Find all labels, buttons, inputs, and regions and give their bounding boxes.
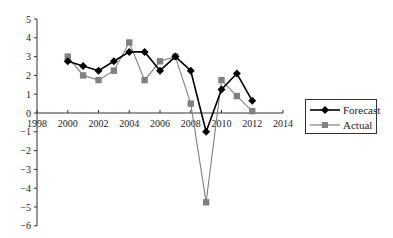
forecast-marker (95, 67, 103, 75)
forecast-line-diamond-icon (310, 105, 340, 115)
actual-marker (80, 72, 86, 78)
legend-item-forecast: Forecast (310, 103, 380, 117)
y-tick-label: 5 (26, 14, 31, 25)
actual-marker (141, 77, 147, 83)
x-tick-label: 2008 (181, 118, 201, 129)
y-tick-label: 0 (26, 108, 31, 119)
x-tick-label: 2010 (212, 118, 232, 129)
forecast-marker (248, 97, 256, 105)
actual-marker (95, 77, 101, 83)
actual-marker (126, 39, 132, 45)
y-tick-label: 4 (26, 32, 31, 43)
actual-marker (234, 93, 240, 99)
y-tick-label: −3 (20, 164, 31, 175)
x-tick-label: 2000 (58, 118, 78, 129)
actual-marker (111, 68, 117, 74)
y-tick-label: −6 (20, 220, 31, 231)
x-tick-label: 2002 (89, 118, 109, 129)
x-tick-label: 2014 (273, 118, 293, 129)
x-tick-label: 2006 (150, 118, 170, 129)
x-tick-label: 2012 (242, 118, 262, 129)
forecast-marker (79, 62, 87, 70)
actual-marker (188, 100, 194, 106)
legend-item-actual: Actual (310, 118, 372, 132)
actual-line-square-icon (310, 120, 340, 130)
y-tick-label: −5 (20, 202, 31, 213)
y-tick-label: 2 (26, 70, 31, 81)
y-tick-label: −2 (20, 145, 31, 156)
actual-marker (157, 58, 163, 64)
actual-marker (249, 108, 255, 114)
chart-legend: Forecast Actual (305, 99, 377, 134)
forecast-marker (110, 57, 118, 65)
legend-label-forecast: Forecast (343, 104, 380, 116)
actual-marker (203, 199, 209, 205)
x-tick-label: 1998 (27, 118, 47, 129)
y-tick-label: −4 (20, 183, 31, 194)
y-tick-label: 3 (26, 51, 31, 62)
y-tick-label: 1 (26, 89, 31, 100)
forecast-marker (202, 128, 210, 136)
legend-label-actual: Actual (343, 119, 372, 131)
x-tick-label: 2004 (119, 118, 139, 129)
actual-marker (218, 77, 224, 83)
